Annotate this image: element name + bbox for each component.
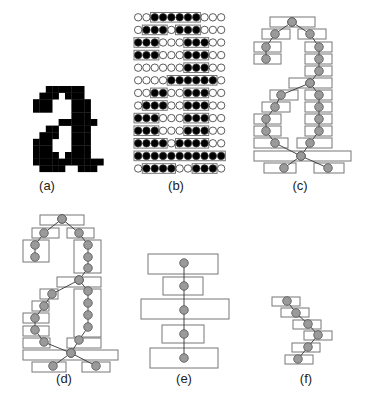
graph-node	[314, 331, 323, 340]
bitmap-pixel	[65, 119, 72, 126]
panel-a-label: (a)	[39, 178, 55, 193]
pixel-off	[168, 26, 175, 33]
bitmap-pixel	[78, 99, 85, 106]
pixel-on	[217, 152, 224, 159]
graph-node	[315, 67, 324, 76]
bitmap-pixel	[97, 159, 104, 166]
bitmap-pixel	[52, 152, 59, 159]
pixel-off	[217, 64, 224, 71]
graph-node	[315, 43, 324, 52]
bitmap-pixel	[84, 145, 91, 152]
bitmap-pixel	[84, 119, 91, 126]
pixel-on	[201, 64, 208, 71]
bitmap-pixel	[39, 159, 46, 166]
graph-node	[67, 349, 76, 358]
graph-node	[75, 229, 84, 238]
panel-d-label: (d)	[56, 371, 72, 386]
bitmap-pixel	[39, 106, 46, 113]
bitmap-pixel	[46, 159, 53, 166]
pixel-on	[134, 140, 141, 147]
pixel-off	[176, 89, 183, 96]
panel-b-label: (b)	[168, 178, 184, 193]
graph-node	[271, 103, 280, 112]
pixel-on	[193, 51, 200, 58]
graph-node	[40, 338, 49, 347]
pixel-off	[217, 165, 224, 172]
bitmap-pixel	[59, 165, 66, 172]
pixel-on	[151, 26, 158, 33]
pixel-off	[217, 51, 224, 58]
pixel-off	[168, 89, 175, 96]
bitmap-pixel	[84, 152, 91, 159]
pixel-off	[168, 114, 175, 121]
bitmap-pixel	[65, 93, 72, 100]
pixel-on	[193, 114, 200, 121]
pixel-off	[134, 26, 141, 33]
pixel-off	[151, 64, 158, 71]
pixel-on	[184, 14, 191, 21]
pixel-off	[209, 14, 216, 21]
run-box	[67, 338, 101, 348]
graph-node	[40, 229, 49, 238]
pixel-on	[159, 14, 166, 21]
pixel-off	[176, 165, 183, 172]
bitmap-pixel	[59, 159, 66, 166]
pixel-off	[217, 102, 224, 109]
graph-node	[262, 115, 271, 124]
pixel-on	[168, 165, 175, 172]
figure-canvas	[0, 0, 365, 395]
bitmap-pixel	[52, 132, 59, 139]
graph-node	[294, 355, 303, 364]
pixel-off	[176, 114, 183, 121]
pixel-on	[193, 89, 200, 96]
graph-node	[262, 127, 271, 136]
pixel-off	[176, 51, 183, 58]
pixel-on	[143, 51, 150, 58]
pixel-on	[209, 77, 216, 84]
pixel-on	[184, 127, 191, 134]
graph-node	[306, 79, 315, 88]
pixel-off	[134, 165, 141, 172]
pixel-off	[134, 14, 141, 21]
graph-node	[84, 241, 93, 250]
graph-node	[92, 362, 101, 371]
graph-node	[315, 127, 324, 136]
pixel-on	[143, 165, 150, 172]
bitmap-pixel	[46, 93, 53, 100]
graph-node	[180, 306, 189, 315]
graph-node	[280, 164, 289, 173]
pixel-on	[143, 102, 150, 109]
pixel-off	[134, 89, 141, 96]
pixel-off	[159, 114, 166, 121]
pixel-on	[176, 152, 183, 159]
pixel-on	[134, 127, 141, 134]
pixel-on	[201, 39, 208, 46]
bitmap-pixel	[78, 139, 85, 146]
graph-node	[40, 302, 49, 311]
pixel-on	[151, 114, 158, 121]
bitmap-pixel	[46, 139, 53, 146]
bitmap-pixel	[65, 86, 72, 93]
pixel-on	[176, 140, 183, 147]
pixel-on	[143, 127, 150, 134]
pixel-on	[151, 14, 158, 21]
bitmap-pixel	[46, 126, 53, 133]
bitmap-pixel	[52, 86, 59, 93]
pixel-on	[201, 165, 208, 172]
graph-node	[315, 91, 324, 100]
pixel-off	[168, 51, 175, 58]
pixel-off	[209, 64, 216, 71]
graph-node	[283, 297, 292, 306]
graph-node	[262, 43, 271, 52]
graph-node	[84, 311, 93, 320]
bitmap-pixel	[39, 145, 46, 152]
pixel-on	[193, 140, 200, 147]
bitmap-pixel	[71, 99, 78, 106]
pixel-off	[209, 26, 216, 33]
pixel-on	[143, 26, 150, 33]
pixel-on	[193, 64, 200, 71]
pixel-on	[184, 140, 191, 147]
pixel-on	[143, 114, 150, 121]
pixel-off	[184, 165, 191, 172]
pixel-on	[151, 39, 158, 46]
